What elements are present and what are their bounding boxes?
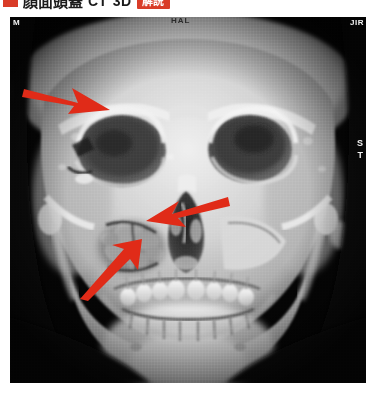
modality-label: CT bbox=[88, 0, 108, 9]
bottom-margin bbox=[0, 383, 380, 403]
annotation-arrow-maxilla bbox=[146, 193, 230, 231]
render-mode-label: 3D bbox=[113, 0, 132, 9]
annotation-arrow-zygoma bbox=[76, 239, 150, 301]
orientation-label-m: M bbox=[13, 18, 20, 27]
orientation-label-jir: JIR bbox=[350, 18, 364, 27]
page-title: 顔面頭蓋 bbox=[23, 0, 83, 9]
orientation-label-hal: HAL bbox=[171, 17, 190, 25]
ct-image-frame: M HAL JIR S T bbox=[10, 17, 366, 383]
red-square-bullet-icon bbox=[3, 0, 18, 7]
page-root: 顔面頭蓋 CT 3D 解説 bbox=[0, 0, 380, 403]
title-group: 顔面頭蓋 CT 3D 解説 bbox=[3, 0, 170, 9]
orientation-label-t: T bbox=[358, 151, 364, 160]
orientation-label-s: S bbox=[357, 139, 363, 148]
title-bar: 顔面頭蓋 CT 3D 解説 bbox=[0, 0, 380, 15]
annotation-arrow-left-orbit bbox=[22, 80, 114, 120]
status-badge: 解説 bbox=[137, 0, 170, 9]
